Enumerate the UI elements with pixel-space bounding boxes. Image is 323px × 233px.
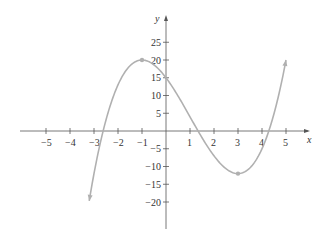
x-tick-label: −2 (113, 137, 124, 148)
y-tick-label: 25 (151, 37, 161, 48)
function-curve (89, 60, 286, 201)
x-tick-label: −4 (65, 137, 76, 148)
curve-start-arrow-icon (88, 195, 93, 201)
x-tick-label: 5 (283, 137, 288, 148)
x-tick-label: −3 (89, 137, 100, 148)
y-tick-label: 10 (151, 90, 161, 101)
y-tick-label: 5 (156, 108, 161, 119)
x-tick-label: −1 (137, 137, 148, 148)
x-tick-label: −5 (41, 137, 52, 148)
x-tick-label: 1 (187, 137, 192, 148)
y-tick-label: −20 (145, 197, 161, 208)
extremum-point (236, 171, 240, 175)
y-axis-arrow-icon (164, 15, 168, 21)
axes (20, 15, 310, 229)
y-tick-label: −10 (145, 161, 161, 172)
x-axis-label: x (306, 134, 312, 145)
y-axis-label: y (154, 13, 160, 24)
x-axis-arrow-icon (304, 129, 310, 133)
y-tick-label: −15 (145, 179, 161, 190)
cubic-function-chart: −5−4−3−2−112345252015105−5−10−15−20 x y (0, 0, 323, 233)
x-tick-label: 2 (211, 137, 216, 148)
extremum-point (140, 58, 144, 62)
ticks: −5−4−3−2−112345252015105−5−10−15−20 (41, 37, 288, 208)
x-tick-label: 3 (235, 137, 240, 148)
y-tick-label: −5 (150, 143, 161, 154)
y-tick-label: 15 (151, 72, 161, 83)
